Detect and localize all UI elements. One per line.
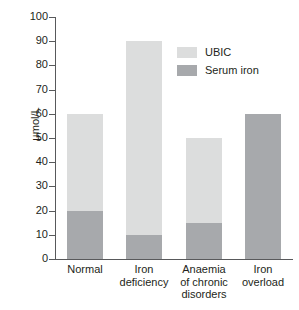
legend-item-label: UBIC [205, 47, 231, 58]
x-axis-tick-label: Ironoverload [227, 263, 299, 288]
legend-item: UBIC [177, 45, 259, 60]
y-axis-tick-label: 80 [8, 59, 48, 70]
x-axis-tick-label-line: Iron [227, 263, 299, 276]
y-axis-tick-label: 40 [8, 156, 48, 167]
y-axis-tick-label: 20 [8, 205, 48, 216]
bar-segment-serum-iron [67, 211, 103, 259]
bar-group [126, 17, 162, 259]
y-axis-tick-label: 30 [8, 180, 48, 191]
y-axis-tick-label: 0 [8, 253, 48, 264]
y-axis-tick [49, 259, 55, 260]
x-axis-tick-label-line: overload [227, 276, 299, 289]
y-axis-tick-label: 60 [8, 108, 48, 119]
legend-swatch-icon [177, 47, 197, 58]
y-axis-tick-label: 90 [8, 35, 48, 46]
bar-segment-ubic [126, 41, 162, 235]
stacked-bar-chart: µmol/L 0102030405060708090100 NormalIron… [0, 0, 299, 310]
y-axis-tick-label: 100 [8, 11, 48, 22]
bar-stack [126, 17, 162, 259]
legend-item-label: Serum iron [205, 65, 259, 76]
x-axis-line [55, 259, 293, 260]
legend-swatch-icon [177, 65, 197, 76]
chart-legend: UBICSerum iron [177, 45, 259, 81]
y-axis-tick-label: 50 [8, 132, 48, 143]
bar-stack [67, 17, 103, 259]
legend-item: Serum iron [177, 63, 259, 78]
y-axis-tick-label: 10 [8, 229, 48, 240]
bar-segment-serum-iron [186, 223, 222, 259]
y-axis-tick-label: 70 [8, 84, 48, 95]
x-axis-tick-label-line: disorders [168, 288, 240, 301]
y-axis-label: µmol/L [30, 94, 41, 154]
bar-segment-ubic [67, 114, 103, 211]
bar-segment-serum-iron [126, 235, 162, 259]
bar-group [67, 17, 103, 259]
bar-segment-serum-iron [245, 114, 281, 259]
bar-segment-ubic [186, 138, 222, 223]
